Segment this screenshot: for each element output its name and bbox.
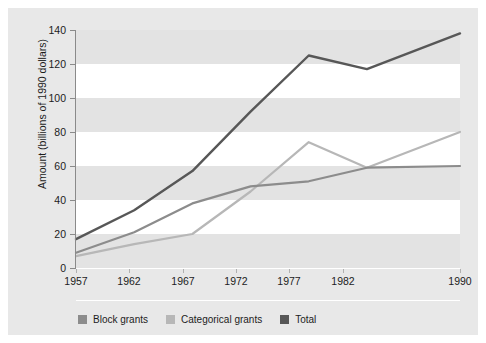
chart-legend: Block grants Categorical grants Total <box>78 311 334 327</box>
x-tick-label: 1972 <box>206 275 266 287</box>
chart-card: 140 120 100 80 60 40 20 0 <box>8 8 478 335</box>
legend-label: Total <box>295 314 316 325</box>
y-tick-mark <box>70 98 75 99</box>
legend-item-total: Total <box>280 314 316 325</box>
x-tick-label: 1990 <box>430 275 486 287</box>
series-line-total <box>76 33 460 239</box>
x-tick-label: 1962 <box>99 275 159 287</box>
legend-divider <box>76 300 460 301</box>
x-tick-mark <box>343 269 344 273</box>
x-tick-mark <box>460 269 461 273</box>
legend-label: Block grants <box>93 314 148 325</box>
x-tick-label: 1967 <box>153 275 213 287</box>
x-tick-mark <box>76 269 77 273</box>
y-tick-mark <box>70 64 75 65</box>
y-tick-label: 0 <box>26 263 66 273</box>
legend-item-block-grants: Block grants <box>78 314 148 325</box>
y-axis-title: Amount (billions of 1990 dollars) <box>36 14 48 214</box>
x-tick-label: 1977 <box>259 275 319 287</box>
x-tick-mark <box>129 269 130 273</box>
x-tick-label: 1957 <box>46 275 106 287</box>
y-tick-label: 20 <box>26 229 66 239</box>
y-axis-line <box>75 30 76 269</box>
series-lines <box>76 30 460 268</box>
y-tick-0: 0 <box>18 263 66 273</box>
legend-swatch-icon <box>166 315 175 324</box>
series-line-categorical-grants <box>76 132 460 256</box>
chart-figure: 140 120 100 80 60 40 20 0 <box>8 8 478 335</box>
x-tick-mark <box>236 269 237 273</box>
y-tick-mark <box>70 234 75 235</box>
legend-item-categorical-grants: Categorical grants <box>166 314 262 325</box>
legend-swatch-icon <box>280 315 289 324</box>
y-tick-mark <box>70 30 75 31</box>
y-tick-mark <box>70 166 75 167</box>
y-tick-mark <box>70 132 75 133</box>
legend-swatch-icon <box>78 315 87 324</box>
x-axis-line <box>76 268 460 269</box>
y-tick-mark <box>70 268 75 269</box>
x-tick-mark <box>289 269 290 273</box>
x-tick-label: 1982 <box>313 275 373 287</box>
y-tick-mark <box>70 200 75 201</box>
plot-area <box>76 30 460 268</box>
y-tick-20: 20 <box>18 229 66 239</box>
legend-label: Categorical grants <box>181 314 262 325</box>
x-tick-mark <box>183 269 184 273</box>
